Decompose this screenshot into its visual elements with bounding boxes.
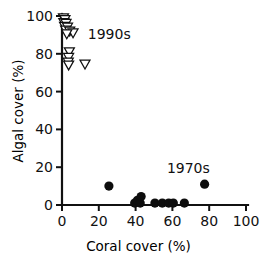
x-tick-label: 40 [127,213,145,229]
series-1990s [58,14,90,70]
y-axis-title: Algal cover (%) [10,41,26,181]
data-point [104,182,113,191]
data-point [180,199,189,208]
annotation-1970s: 1970s [167,160,210,176]
x-tick-label: 60 [163,213,181,229]
y-tick-label: 40 [35,121,53,137]
data-point [169,199,178,208]
x-tick-label: 20 [90,213,108,229]
y-tick-label: 20 [35,159,53,175]
x-tick-label: 80 [200,213,218,229]
data-point [64,61,74,70]
data-point [137,192,146,201]
x-axis-title: Coral cover (%) [0,238,277,254]
series-1970s [104,180,209,208]
y-tick-label: 100 [26,8,53,24]
annotation-1990s: 1990s [88,26,131,42]
y-tick-label: 0 [44,197,53,213]
data-point [200,180,209,189]
scatter-plot-figure: 0204060801000204060801001990s1970s Coral… [0,0,277,263]
y-tick-label: 60 [35,84,53,100]
x-tick-label: 0 [58,213,67,229]
plot-canvas: 0204060801000204060801001990s1970s [0,0,277,263]
x-tick-label: 100 [233,213,260,229]
y-tick-label: 80 [35,46,53,62]
data-point [80,60,90,69]
